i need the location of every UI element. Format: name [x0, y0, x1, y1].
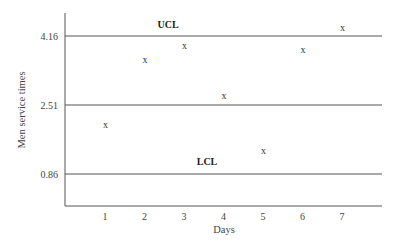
ucl-label: UCL — [157, 19, 178, 30]
data-point-marker: x — [340, 22, 345, 33]
x-tick-label: 1 — [103, 211, 108, 222]
x-tick-label: 2 — [142, 211, 147, 222]
y-tick-labels: 4.162.510.86 — [41, 31, 59, 180]
axes — [65, 13, 382, 206]
lcl-label: LCL — [197, 156, 218, 167]
data-point-marker: x — [222, 90, 227, 101]
y-tick-label: 4.16 — [41, 31, 59, 42]
data-points: xxxxxxx — [103, 22, 345, 156]
y-tick-label: 0.86 — [41, 169, 59, 180]
data-point-marker: x — [143, 54, 148, 65]
control-lines — [65, 36, 382, 174]
x-tick-label: 6 — [300, 211, 305, 222]
data-point-marker: x — [182, 40, 187, 51]
x-axis-label: Days — [213, 224, 235, 235]
x-tick-label: 4 — [221, 211, 226, 222]
x-tick-label: 7 — [340, 211, 345, 222]
data-point-marker: x — [103, 119, 108, 130]
y-axis-label: Men service times — [16, 72, 27, 149]
control-chart: 4.162.510.86 1234567 xxxxxxx UCL LCL Day… — [0, 0, 401, 242]
data-point-marker: x — [261, 145, 266, 156]
x-tick-labels: 1234567 — [103, 211, 345, 222]
x-tick-label: 3 — [182, 211, 187, 222]
data-point-marker: x — [301, 44, 306, 55]
y-tick-label: 2.51 — [41, 100, 59, 111]
x-tick-label: 5 — [261, 211, 266, 222]
